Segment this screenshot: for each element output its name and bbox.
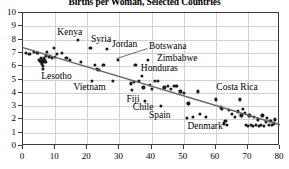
country-label-costa-rica: Costa Rica (216, 83, 257, 93)
x-axis-tick (183, 145, 184, 149)
data-point (272, 122, 275, 125)
data-point (243, 111, 246, 114)
data-point (60, 51, 63, 54)
y-axis-tick (18, 92, 22, 93)
country-label-lesotho: Lesotho (41, 72, 72, 82)
x-axis-tick-label: 80 (267, 151, 289, 161)
data-point (274, 118, 277, 121)
x-axis-tick (279, 145, 280, 149)
country-label-zimbabwe: Zimbabwe (157, 54, 198, 64)
data-point (142, 86, 145, 89)
x-axis-tick-label: 20 (74, 151, 98, 161)
x-axis-tick (54, 145, 55, 149)
data-point (54, 55, 57, 58)
data-point (79, 61, 82, 64)
data-point (36, 51, 39, 54)
x-axis-tick-label: 50 (171, 151, 195, 161)
data-point (182, 91, 185, 94)
y-axis-tick (18, 105, 22, 106)
y-axis-tick (18, 25, 22, 26)
data-point (176, 85, 179, 88)
x-axis-tick-label: 60 (203, 151, 227, 161)
data-point (225, 123, 228, 126)
country-label-syria: Syria (91, 35, 111, 45)
data-point (105, 47, 108, 50)
gridline-horizontal (23, 133, 278, 134)
y-axis-tick-label: 4 (0, 87, 16, 97)
y-axis-tick-label: 9 (0, 20, 16, 30)
x-axis-tick (22, 145, 23, 149)
x-axis-tick (151, 145, 152, 149)
data-point (131, 89, 134, 92)
country-label-vietnam: Vietnam (73, 83, 105, 93)
data-point (156, 79, 159, 82)
data-point (214, 98, 217, 101)
x-axis-tick (86, 145, 87, 149)
y-axis-tick (18, 39, 22, 40)
data-point (256, 118, 259, 121)
country-label-kenya: Kenya (57, 28, 82, 38)
scatter-chart: Births per Woman, Selected Countries 010… (0, 0, 289, 169)
gridline-vertical (87, 13, 88, 144)
x-axis-tick (247, 145, 248, 149)
data-point (248, 114, 251, 117)
data-point (224, 119, 227, 122)
data-point (137, 79, 140, 82)
chart-title: Births per Woman, Selected Countries (0, 0, 289, 7)
gridline-vertical (184, 13, 185, 144)
x-axis-tick-label: 40 (139, 151, 163, 161)
data-point (147, 58, 150, 61)
y-axis-tick (18, 118, 22, 119)
y-axis-tick-label: 3 (0, 100, 16, 110)
y-axis-tick-label: 10 (0, 7, 16, 17)
country-label-spain: Spain (149, 111, 171, 121)
data-point (241, 107, 244, 110)
y-axis-tick (18, 145, 22, 146)
data-point (238, 98, 241, 101)
x-axis-tick-label: 70 (235, 151, 259, 161)
data-point (76, 38, 79, 41)
y-axis-tick-label: 2 (0, 113, 16, 123)
x-axis-tick (215, 145, 216, 149)
gridline-horizontal (23, 93, 278, 94)
data-point (205, 115, 208, 118)
x-axis-tick-label: 0 (10, 151, 34, 161)
country-label-denmark: Denmark (187, 122, 222, 132)
y-axis-tick-label: 7 (0, 47, 16, 57)
data-point (261, 114, 264, 117)
y-axis-tick (18, 52, 22, 53)
data-point (198, 112, 201, 115)
country-label-jordan: Jordan (112, 40, 137, 50)
data-point (237, 110, 240, 113)
x-axis-tick-label: 10 (42, 151, 66, 161)
x-axis-tick (118, 145, 119, 149)
data-point (132, 81, 135, 84)
y-axis-tick-label: 6 (0, 60, 16, 70)
data-point (169, 87, 172, 90)
data-point (160, 105, 163, 108)
data-point (140, 74, 143, 77)
y-axis-tick (18, 79, 22, 80)
y-axis-tick (18, 65, 22, 66)
y-axis-tick (18, 132, 22, 133)
data-point (262, 124, 265, 127)
data-point (111, 79, 114, 82)
data-point (44, 61, 47, 64)
data-point (68, 58, 71, 61)
data-point (187, 102, 190, 105)
y-axis-tick (18, 12, 22, 13)
data-point (227, 108, 230, 111)
gridline-vertical (152, 13, 153, 144)
data-point (89, 46, 92, 49)
data-point (28, 53, 31, 56)
data-point (240, 114, 243, 117)
data-point (97, 69, 100, 72)
y-axis-tick-label: 8 (0, 34, 16, 44)
data-point (150, 87, 153, 90)
y-axis-tick-label: 5 (0, 74, 16, 84)
x-axis-tick-label: 30 (106, 151, 130, 161)
data-point (221, 107, 224, 110)
data-point (233, 115, 236, 118)
y-axis-tick-label: 0 (0, 140, 16, 150)
data-point (192, 115, 195, 118)
